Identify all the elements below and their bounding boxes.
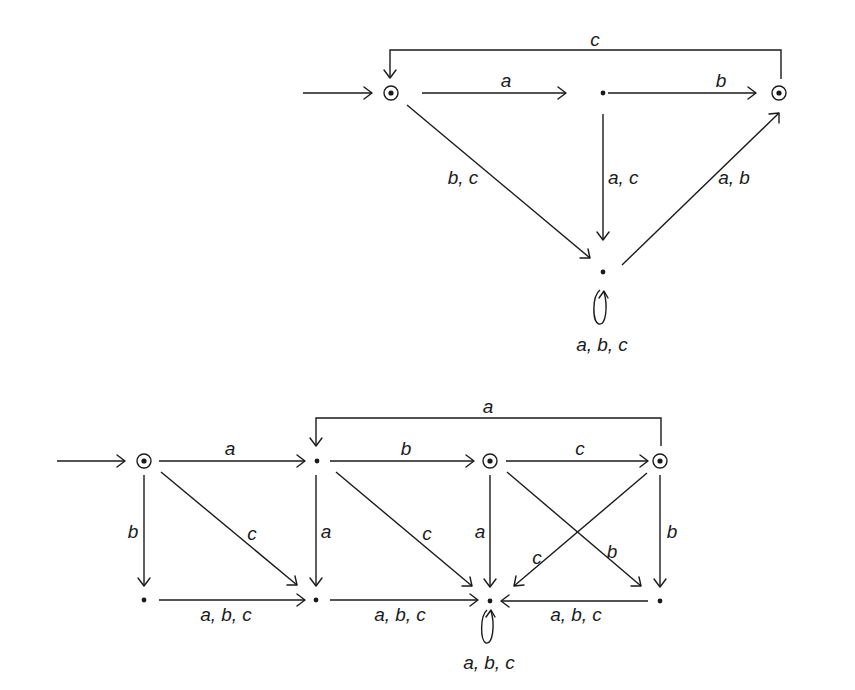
edge-p1-p5: a [310,475,331,586]
edge-q1-q2: b [608,70,756,99]
edge-p7-p6: a, b, c [501,595,648,625]
edge-label: a [225,438,236,459]
edge-label: b [716,70,727,91]
edge-p1-p2: b [330,438,474,467]
state-p5 [314,598,319,603]
edge-label: c [422,523,432,544]
edge-label: a, c [608,167,639,188]
edge-p3-p6: c [514,473,647,586]
state-p1 [315,459,320,464]
initial-arrow-q0 [303,87,372,99]
edge-p2-p3: c [506,438,648,467]
edge-p0-p1: a [159,438,305,467]
edge-label: c [575,438,585,459]
edge-q3-q2: a, b [622,113,779,265]
edge-label: b [401,438,412,459]
state-p4 [142,598,147,603]
edge-p3-p7: b [654,475,677,587]
edge-label: a [475,521,486,542]
edge-p3-p1: a [310,396,661,446]
edge-q1-q3: a, c [597,114,639,240]
edge-label: a, b, c [463,652,515,673]
edge-label: a, b, c [200,604,252,625]
edge-label: b [128,521,139,542]
edge-label: c [532,547,542,568]
edge-label: a [483,396,494,417]
edge-label: a, b, c [374,604,426,625]
state-p6-sink [488,599,493,604]
edge-label: a, b, c [550,604,602,625]
state-q2-accepting [772,86,786,100]
automata-diagram: a b c b, c a, c a, b [0,0,855,690]
edge-p2-p6: a [475,475,496,587]
edge-label: c [590,29,600,50]
state-q3-sink [601,270,606,275]
edge-label: b [607,541,618,562]
edge-label: a [321,521,332,542]
state-q1 [601,91,606,96]
edge-label: b [667,521,678,542]
initial-arrow-p0 [57,455,125,467]
edge-p4-p5: a, b, c [159,594,305,625]
automaton-top: a b c b, c a, c a, b [303,29,786,355]
edge-p0-p4: b [128,475,150,586]
state-q0-accepting [384,86,398,100]
state-p7 [658,599,663,604]
edge-p2-p7: b [507,472,641,586]
edge-p1-p6: c [336,472,472,586]
edge-p0-p5: c [161,472,297,585]
edge-label: a, b, c [576,334,628,355]
automaton-bottom: a b c a b c [57,396,677,673]
state-p2-accepting [483,454,497,468]
state-p0-accepting [137,454,151,468]
self-loop-p6: a, b, c [463,610,515,673]
edge-q0-q1: a [422,70,566,99]
edge-label: b, c [448,167,479,188]
edge-label: a [501,70,512,91]
self-loop-q3: a, b, c [576,290,628,355]
edge-p5-p6: a, b, c [330,594,478,625]
state-p3-accepting [653,454,667,468]
edge-label: a, b [718,167,750,188]
edge-label: c [247,523,257,544]
edge-q0-q3: b, c [407,105,590,258]
